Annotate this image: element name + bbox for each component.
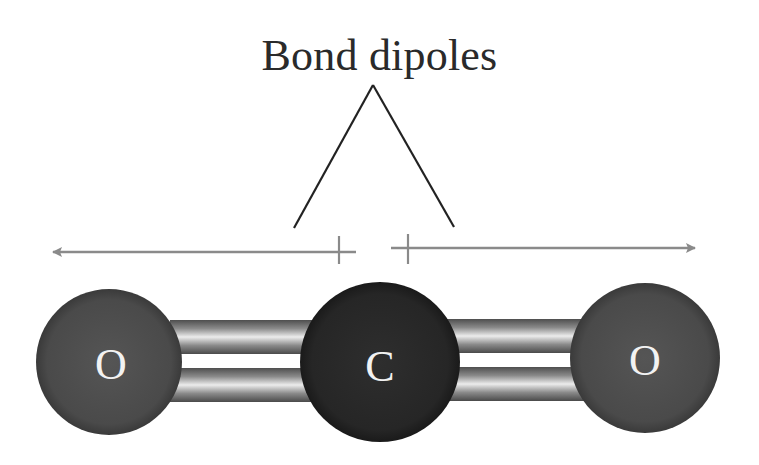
double-bond-left	[170, 320, 320, 402]
pointer-lines	[294, 85, 454, 228]
atom-carbon: C	[300, 282, 460, 442]
dipole-arrow-right	[391, 234, 695, 264]
atom-label-oxygen-left: O	[95, 340, 127, 389]
co2-diagram: Bond dipoles	[0, 0, 759, 465]
dipole-arrow-left	[53, 236, 356, 264]
atom-oxygen-right: O	[570, 283, 720, 433]
pointer-line-left	[294, 85, 373, 228]
atom-label-carbon: C	[365, 342, 394, 391]
diagram-canvas: O C O	[0, 0, 759, 465]
pointer-line-right	[373, 85, 454, 227]
atom-label-oxygen-right: O	[629, 336, 661, 385]
atom-oxygen-left: O	[36, 289, 182, 435]
double-bond-right	[440, 319, 590, 401]
